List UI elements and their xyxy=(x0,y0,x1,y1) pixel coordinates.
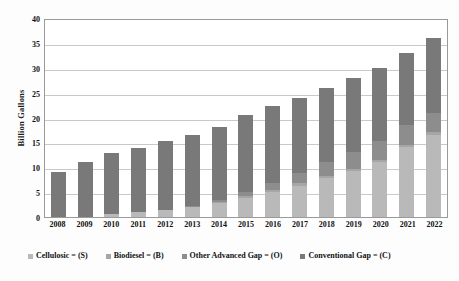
x-axis-tick-label: 2018 xyxy=(313,220,340,234)
legend-swatch-icon xyxy=(106,254,111,259)
x-axis-tick-label: 2008 xyxy=(44,220,71,234)
bar-segment-c xyxy=(51,172,66,217)
x-axis-tick-label: 2022 xyxy=(421,220,448,234)
bar-column xyxy=(393,20,420,217)
bar-column xyxy=(125,20,152,217)
bar-segment-c xyxy=(158,141,173,209)
bar-segment-c xyxy=(131,148,146,212)
bar-column xyxy=(72,20,99,217)
bar-stack xyxy=(78,162,93,217)
x-axis-tick-label: 2012 xyxy=(152,220,179,234)
bar-segment-s xyxy=(238,198,253,217)
bar-segment-s xyxy=(265,192,280,217)
x-axis-tick-labels: 2008200920102011201220132014201520162017… xyxy=(44,220,448,234)
bar-segment-c xyxy=(426,38,441,113)
bar-segment-s xyxy=(372,162,387,217)
bar-segment-s xyxy=(319,178,334,217)
x-axis-tick-label: 2017 xyxy=(286,220,313,234)
bar-stack xyxy=(292,98,307,217)
y-axis-tick-label: 35 xyxy=(16,39,40,48)
legend-item-label: Cellulosic = (S) xyxy=(36,252,88,260)
bar-stack xyxy=(319,88,334,217)
bar-segment-o xyxy=(319,162,334,176)
x-axis-tick-label: 2010 xyxy=(98,220,125,234)
bar-column xyxy=(367,20,394,217)
bar-stack xyxy=(238,115,253,217)
bar-segment-o xyxy=(372,141,387,160)
y-axis-tick-label: 20 xyxy=(16,114,40,123)
bar-segment-o xyxy=(399,125,414,145)
x-axis-tick-label: 2011 xyxy=(125,220,152,234)
bar-stack xyxy=(346,78,361,217)
bar-segment-o xyxy=(426,113,441,133)
y-axis-tick-label: 40 xyxy=(16,15,40,24)
y-axis-tick-label: 10 xyxy=(16,164,40,173)
x-axis-tick-label: 2009 xyxy=(71,220,98,234)
chart-legend: Cellulosic = (S)Biodiesel = (B)Other Adv… xyxy=(28,249,432,263)
legend-item[interactable]: Other Advanced Gap = (O) xyxy=(182,252,283,260)
y-axis-tick-label: 0 xyxy=(16,214,40,223)
legend-swatch-icon xyxy=(28,254,33,259)
bar-segment-c xyxy=(399,53,414,125)
x-axis-tick-label: 2014 xyxy=(206,220,233,234)
bar-column xyxy=(313,20,340,217)
legend-item-label: Biodiesel = (B) xyxy=(114,252,164,260)
x-axis-tick-label: 2016 xyxy=(260,220,287,234)
bar-segment-s xyxy=(104,214,119,217)
bar-column xyxy=(45,20,72,217)
y-axis-tick-labels: 4035302520151050 xyxy=(12,0,40,281)
bar-stack xyxy=(372,68,387,217)
bar-segment-s xyxy=(399,147,414,217)
bar-segment-c xyxy=(319,88,334,163)
bar-segment-c xyxy=(346,78,361,153)
bar-stack xyxy=(104,153,119,217)
bar-column xyxy=(152,20,179,217)
bar-segment-s xyxy=(426,135,441,217)
bar-column xyxy=(286,20,313,217)
y-axis-tick-label: 15 xyxy=(16,139,40,148)
bar-segment-s xyxy=(212,203,227,217)
x-axis-tick-label: 2021 xyxy=(394,220,421,234)
legend-item-label: Other Advanced Gap = (O) xyxy=(190,252,283,260)
bar-column xyxy=(259,20,286,217)
x-axis-tick-label: 2019 xyxy=(340,220,367,234)
bar-segment-c xyxy=(292,98,307,174)
bar-column xyxy=(206,20,233,217)
bar-segment-s xyxy=(346,171,361,217)
bar-segment-c xyxy=(78,162,93,217)
x-axis-tick-label: 2015 xyxy=(233,220,260,234)
bar-stack xyxy=(426,38,441,217)
legend-item[interactable]: Cellulosic = (S) xyxy=(28,252,88,260)
bar-stack xyxy=(399,53,414,217)
y-axis-tick-label: 25 xyxy=(16,89,40,98)
bar-segment-o xyxy=(292,173,307,183)
stacked-bar-chart: Billion Gallons 4035302520151050 2008200… xyxy=(0,0,459,281)
bar-stack xyxy=(185,135,200,217)
bar-segment-c xyxy=(104,153,119,214)
legend-item[interactable]: Conventional Gap = (C) xyxy=(300,252,390,260)
bar-column xyxy=(99,20,126,217)
bar-stack xyxy=(131,148,146,217)
bar-column xyxy=(420,20,447,217)
bar-stack xyxy=(265,106,280,217)
legend-item[interactable]: Biodiesel = (B) xyxy=(106,252,164,260)
y-axis-tick-label: 5 xyxy=(16,189,40,198)
bar-series-group xyxy=(45,20,447,217)
y-axis-tick-label: 30 xyxy=(16,64,40,73)
bar-column xyxy=(233,20,260,217)
bar-segment-s xyxy=(292,186,307,217)
bar-segment-s xyxy=(185,207,200,217)
bar-segment-s xyxy=(131,212,146,217)
bar-column xyxy=(340,20,367,217)
plot-area xyxy=(44,19,448,218)
bar-segment-c xyxy=(185,135,200,206)
bar-stack xyxy=(158,141,173,217)
bar-segment-s xyxy=(158,210,173,217)
bar-segment-c xyxy=(212,127,227,200)
bar-segment-c xyxy=(238,115,253,192)
x-axis-tick-label: 2020 xyxy=(367,220,394,234)
x-axis-tick-label: 2013 xyxy=(179,220,206,234)
bar-segment-c xyxy=(372,68,387,141)
bar-stack xyxy=(212,127,227,217)
legend-item-label: Conventional Gap = (C) xyxy=(308,252,390,260)
